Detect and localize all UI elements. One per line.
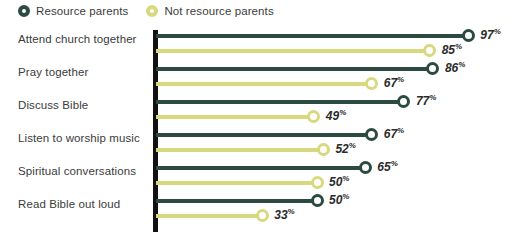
value-label: 50% xyxy=(329,174,349,189)
stem xyxy=(156,181,317,185)
point-marker xyxy=(365,128,378,141)
point-marker xyxy=(397,95,410,108)
point-marker xyxy=(311,176,324,189)
stem xyxy=(156,214,262,218)
point-marker xyxy=(317,143,330,156)
value-label: 86% xyxy=(445,60,465,75)
value-label: 77% xyxy=(416,93,436,108)
legend-label: Not resource parents xyxy=(164,5,273,17)
category-label: Listen to worship music xyxy=(18,132,148,144)
value-label: 85% xyxy=(442,42,462,57)
point-marker xyxy=(311,194,324,207)
category-label: Pray together xyxy=(18,66,148,78)
chart-row: Spiritual conversations 65% 50% xyxy=(0,160,527,193)
value-label: 52% xyxy=(335,141,355,156)
category-label: Attend church together xyxy=(18,33,148,45)
stem xyxy=(156,100,404,104)
stem xyxy=(156,82,372,86)
category-label: Spiritual conversations xyxy=(18,165,148,177)
value-label: 49% xyxy=(326,108,346,123)
point-marker xyxy=(365,77,378,90)
ring-marker-icon xyxy=(18,5,30,17)
value-label: 65% xyxy=(377,159,397,174)
point-marker xyxy=(426,62,439,75)
chart-row: Pray together 86% 67% xyxy=(0,61,527,94)
category-label: Discuss Bible xyxy=(18,99,148,111)
chart-row: Attend church together 97% 85% xyxy=(0,28,527,61)
stem xyxy=(156,67,433,71)
category-label: Read Bible out loud xyxy=(18,198,148,210)
value-label: 97% xyxy=(480,27,500,42)
point-marker xyxy=(423,44,436,57)
legend-item-resource-parents: Resource parents xyxy=(18,5,128,17)
value-label: 67% xyxy=(384,75,404,90)
stem xyxy=(156,199,317,203)
value-label: 67% xyxy=(384,126,404,141)
point-marker xyxy=(462,29,475,42)
ring-marker-icon xyxy=(146,5,158,17)
value-label: 50% xyxy=(329,192,349,207)
point-marker xyxy=(256,209,269,222)
chart-legend: Resource parents Not resource parents xyxy=(18,2,274,20)
point-marker xyxy=(307,110,320,123)
stem xyxy=(156,166,365,170)
stem xyxy=(156,133,372,137)
stem xyxy=(156,34,468,38)
legend-label: Resource parents xyxy=(36,5,128,17)
chart-row: Listen to worship music 67% 52% xyxy=(0,127,527,160)
chart-row: Discuss Bible 77% 49% xyxy=(0,94,527,127)
stem xyxy=(156,115,314,119)
legend-item-not-resource-parents: Not resource parents xyxy=(146,5,273,17)
value-label: 33% xyxy=(274,207,294,222)
chart-row: Read Bible out loud 50% 33% xyxy=(0,193,527,226)
stem xyxy=(156,148,323,152)
chart-plot-area: Attend church together 97% 85% Pray toge… xyxy=(0,26,527,238)
point-marker xyxy=(359,161,372,174)
stem xyxy=(156,49,430,53)
